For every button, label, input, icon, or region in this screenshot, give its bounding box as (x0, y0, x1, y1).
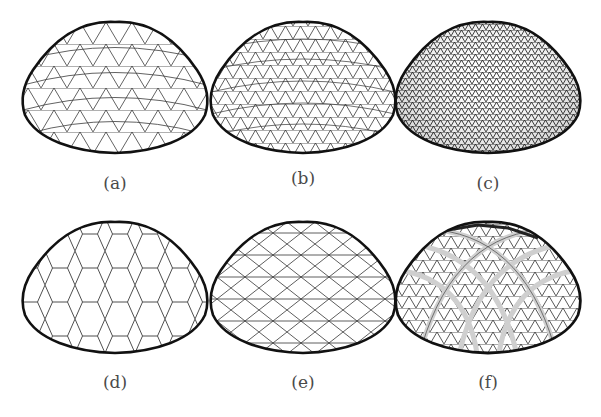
panel-label-d: (d) (15, 372, 215, 392)
panel-a: (a) (15, 0, 215, 208)
panel-label-f: (f) (388, 372, 588, 392)
panel-b: (b) (203, 0, 403, 208)
panel-label-a: (a) (15, 173, 215, 193)
panel-label-c: (c) (388, 173, 588, 193)
triangular-fine-dome-icon (388, 0, 588, 170)
panel-label-e: (e) (203, 372, 403, 392)
ribbed-triangular-dome-icon (388, 200, 588, 370)
panel-label-b: (b) (203, 168, 403, 188)
panel-d: (d) (15, 200, 215, 408)
triangular-medium-dome-icon (203, 0, 403, 170)
panel-c: (c) (388, 0, 588, 208)
triangular-coarse-dome-icon (15, 0, 215, 170)
panel-e: (e) (203, 200, 403, 408)
diamond-grid-dome-icon (203, 200, 403, 370)
panel-f: (f) (388, 200, 588, 408)
hexagonal-grid-dome-icon (15, 200, 215, 370)
